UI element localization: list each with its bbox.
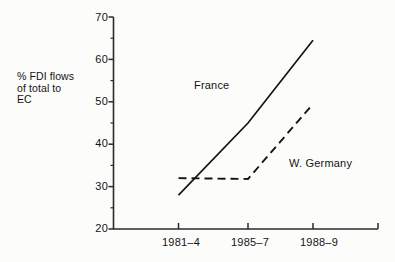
series-line-w-germany — [179, 104, 314, 179]
chart-container: % FDI flows of total to EC 70 60 50 40 3… — [0, 0, 395, 262]
chart-plot-svg — [0, 0, 395, 262]
x-axis-ticks — [179, 223, 379, 229]
series-line-france — [179, 40, 314, 195]
